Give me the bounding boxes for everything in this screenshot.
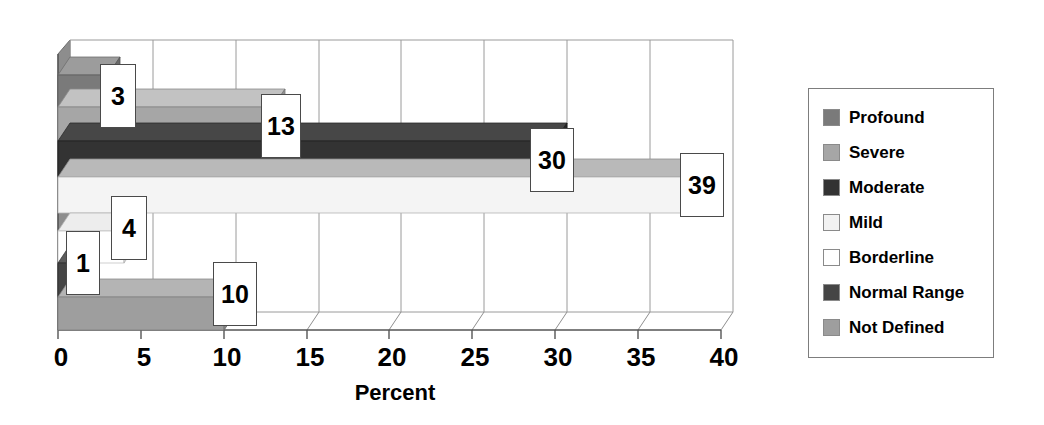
legend-label-not-defined: Not Defined xyxy=(849,318,944,338)
legend-item-not-defined[interactable]: Not Defined xyxy=(823,310,993,345)
legend-label-normal-range: Normal Range xyxy=(849,283,964,303)
bar-chart: 3 13 30 39 4 1 10 0 5 10 15 20 25 30 35 … xyxy=(0,0,790,425)
value-label-severe: 13 xyxy=(261,94,301,158)
x-tick-40: 40 xyxy=(710,342,739,373)
x-tick-35: 35 xyxy=(627,342,656,373)
x-tick-0: 0 xyxy=(54,342,68,373)
legend-label-borderline: Borderline xyxy=(849,248,934,268)
legend-item-profound[interactable]: Profound xyxy=(823,100,993,135)
legend-item-severe[interactable]: Severe xyxy=(823,135,993,170)
value-label-moderate: 30 xyxy=(530,128,574,192)
legend-item-mild[interactable]: Mild xyxy=(823,205,993,240)
x-tick-15: 15 xyxy=(296,342,325,373)
legend-item-normal-range[interactable]: Normal Range xyxy=(823,275,993,310)
legend-label-profound: Profound xyxy=(849,108,925,128)
legend-item-moderate[interactable]: Moderate xyxy=(823,170,993,205)
x-tick-10: 10 xyxy=(213,342,242,373)
legend-swatch-profound xyxy=(823,109,840,126)
legend-swatch-borderline xyxy=(823,249,840,266)
x-axis-title: Percent xyxy=(0,380,790,406)
x-tick-25: 25 xyxy=(461,342,490,373)
legend-label-severe: Severe xyxy=(849,143,905,163)
value-label-not-defined: 10 xyxy=(213,262,257,326)
legend-label-moderate: Moderate xyxy=(849,178,925,198)
x-tick-5: 5 xyxy=(137,342,151,373)
value-label-borderline: 4 xyxy=(111,196,147,260)
x-axis-ticks xyxy=(58,330,721,339)
x-tick-20: 20 xyxy=(378,342,407,373)
x-tick-30: 30 xyxy=(544,342,573,373)
legend-swatch-mild xyxy=(823,214,840,231)
chart-legend: Profound Severe Moderate Mild Borderline… xyxy=(808,88,994,358)
bar-mild xyxy=(58,159,716,213)
value-label-mild: 39 xyxy=(680,153,724,217)
value-label-profound: 3 xyxy=(100,64,136,128)
legend-swatch-not-defined xyxy=(823,319,840,336)
legend-swatch-severe xyxy=(823,144,840,161)
legend-swatch-normal-range xyxy=(823,284,840,301)
legend-item-borderline[interactable]: Borderline xyxy=(823,240,993,275)
value-label-normal-range: 1 xyxy=(66,231,100,295)
legend-label-mild: Mild xyxy=(849,213,883,233)
legend-swatch-moderate xyxy=(823,179,840,196)
chart-page: 3 13 30 39 4 1 10 0 5 10 15 20 25 30 35 … xyxy=(0,0,1044,425)
